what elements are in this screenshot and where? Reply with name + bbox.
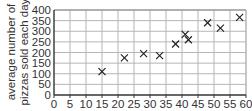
x-tick-label: 0 — [51, 98, 57, 110]
x-tick-label: 50 — [208, 98, 221, 110]
data-points — [99, 14, 244, 75]
x-tick-label: 60 — [240, 98, 252, 110]
y-tick-label: 350 — [32, 15, 51, 27]
x-tick-label: 15 — [96, 98, 109, 110]
x-tick-label: 55 — [224, 98, 237, 110]
x-tick-label: 45 — [192, 98, 205, 110]
y-tick-label: 50 — [38, 78, 51, 90]
y-tick-label: 100 — [32, 68, 51, 80]
gridlines — [54, 10, 246, 95]
y-tick-label: 400 — [32, 4, 51, 16]
x-marker-icon — [140, 50, 147, 57]
y-tick-label: 300 — [32, 25, 51, 37]
x-tick-label: 20 — [112, 98, 125, 110]
x-marker-icon — [156, 52, 163, 59]
x-tick-label: 10 — [80, 98, 93, 110]
scatter-plot: 050100150200250300350400 051015202530354… — [0, 0, 252, 111]
y-tick-label: 150 — [32, 57, 51, 69]
x-tick-label: 40 — [176, 98, 189, 110]
x-tick-labels: 051015202530354045505560 — [51, 98, 252, 110]
x-marker-icon — [121, 54, 128, 61]
x-tick-label: 30 — [144, 98, 157, 110]
x-tick-label: 5 — [67, 98, 73, 110]
x-marker-icon — [217, 25, 224, 32]
y-tick-labels: 050100150200250300350400 — [32, 4, 51, 101]
y-tick-label: 250 — [32, 36, 51, 48]
x-tick-label: 35 — [160, 98, 173, 110]
x-tick-label: 25 — [128, 98, 141, 110]
x-marker-icon — [236, 14, 243, 21]
y-tick-label: 200 — [32, 47, 51, 59]
